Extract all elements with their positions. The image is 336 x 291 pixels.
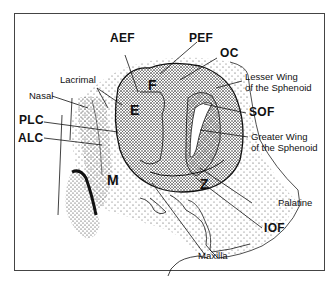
label-sof: SOF (249, 106, 275, 119)
region-zygoma: Z (200, 177, 209, 192)
label-iof: IOF (264, 222, 285, 235)
region-frontal: F (148, 78, 157, 93)
label-pef: PEF (189, 32, 213, 45)
label-greater-wing-line2: of the Sphenoid (251, 143, 318, 153)
label-maxilla: Maxilla (198, 251, 228, 261)
label-nasal: Nasal (29, 91, 53, 101)
label-alc: ALC (18, 132, 44, 145)
label-lacrimal: Lacrimal (60, 75, 96, 85)
label-lesser-wing-line1: Lesser Wing (245, 72, 298, 82)
region-ethmoid: E (130, 103, 139, 118)
region-maxilla: M (107, 173, 119, 188)
label-plc: PLC (19, 114, 44, 127)
label-greater-wing-line1: Greater Wing (251, 132, 308, 142)
label-aef: AEF (110, 32, 135, 45)
label-palatine: Palatine (278, 198, 312, 208)
label-oc: OC (220, 47, 239, 60)
label-lesser-wing-line2: of the Sphenoid (245, 83, 312, 93)
